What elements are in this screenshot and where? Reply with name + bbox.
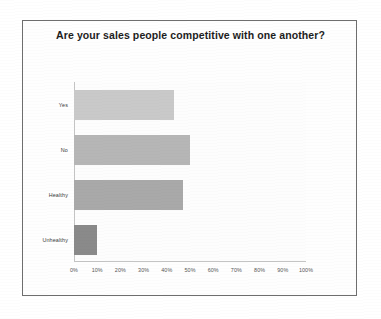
category-label-no: No [61,147,68,153]
x-axis-line [74,261,306,262]
chart-title: Are your sales people competitive with o… [49,29,332,42]
bar-row: Unhealthy [74,225,97,255]
x-tick-label: 20% [115,267,126,273]
x-tick-label: 0% [70,267,78,273]
category-label-unhealthy: Unhealthy [42,237,68,243]
bar-row: Yes [74,90,174,120]
x-tick-label: 70% [231,267,242,273]
bar-healthy [74,180,183,210]
bar-no [74,135,190,165]
x-tick-label: 40% [161,267,172,273]
x-tick-label: 100% [299,267,313,273]
x-tick-label: 90% [277,267,288,273]
x-tick-label: 50% [184,267,195,273]
chart-frame: Are your sales people competitive with o… [22,20,357,296]
bar-row: No [74,135,190,165]
x-axis-tick-labels: 0%10%20%30%40%50%60%70%80%90%100% [74,267,306,279]
bar-yes [74,90,174,120]
x-tick-label: 60% [208,267,219,273]
x-tick-label: 10% [92,267,103,273]
category-label-yes: Yes [59,102,68,108]
chart-page: Are your sales people competitive with o… [0,0,381,319]
x-tick-label: 80% [254,267,265,273]
bar-row: Healthy [74,180,183,210]
x-tick-label: 30% [138,267,149,273]
category-label-healthy: Healthy [49,192,68,198]
bar-unhealthy [74,225,97,255]
plot-area: YesNoHealthyUnhealthy [74,82,306,262]
